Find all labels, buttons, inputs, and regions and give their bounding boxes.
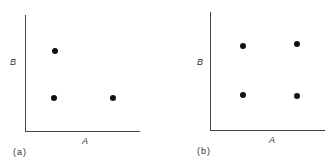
panel-b-caption: (b) — [197, 146, 211, 156]
panel-a-x-label: A — [82, 136, 88, 146]
panel-b-point — [240, 43, 246, 49]
panel-b-x-axis — [210, 130, 325, 131]
panel-b-point — [294, 93, 300, 99]
panel-b-point — [240, 92, 246, 98]
panel-a-y-label: B — [10, 57, 16, 67]
panel-b-y-axis — [210, 12, 211, 130]
panel-a-point — [51, 95, 57, 101]
panel-b-y-label: B — [197, 57, 203, 67]
panel-a-caption: (a) — [13, 147, 27, 157]
panel-a-y-axis — [25, 15, 26, 131]
panel-b-x-label: A — [269, 135, 275, 145]
panel-a-x-axis — [25, 131, 140, 132]
panel-a-point — [110, 95, 116, 101]
panel-a-point — [52, 48, 58, 54]
panel-b-point — [294, 41, 300, 47]
